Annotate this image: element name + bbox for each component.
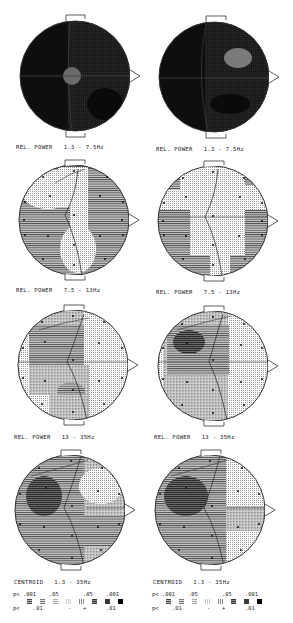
swatch-dark-gray — [244, 599, 249, 604]
legend-value-001-pos: .001 — [106, 591, 119, 597]
legend-value-01-neg: .01 — [33, 605, 43, 611]
topomap-rel-power-delta-theta-left — [10, 4, 145, 139]
swatch-dots-dense — [79, 599, 84, 604]
panel-label-b2: REL. POWER 7.5 - 13Hz — [156, 289, 240, 295]
topomap-rel-power-alpha-left — [10, 155, 145, 285]
legend-plus: + — [83, 605, 86, 611]
swatch-hatch-dark — [231, 599, 236, 604]
topomap-centroid-right — [146, 446, 286, 576]
legend-value-05-pos: .05 — [83, 591, 93, 597]
legend-value-05-neg: .05 — [188, 591, 198, 597]
legend-value-001-neg: .001 — [23, 591, 36, 597]
swatch-hatch-light — [53, 599, 58, 604]
topomap-rel-power-beta-left — [9, 300, 144, 430]
significance-legend-right: p< .001 .05 .05 .001 p< .01 - + .01 — [152, 591, 262, 612]
legend-swatch-row — [13, 598, 123, 605]
swatch-black — [257, 599, 262, 604]
legend-value-01-neg: .01 — [172, 605, 182, 611]
panel-label-d2: CENTROID 1.3 - 35Hz — [153, 579, 230, 585]
legend-swatch-row — [152, 598, 262, 605]
swatch-hatch-medium — [40, 599, 45, 604]
legend-p-label-top: p< — [13, 591, 20, 597]
swatch-dark-gray — [105, 599, 110, 604]
legend-plus: + — [222, 605, 225, 611]
panel-label-d1: CENTROID 1.3 - 35Hz — [14, 579, 91, 585]
topomap-rel-power-delta-theta-right — [150, 4, 290, 139]
legend-minus: - — [207, 605, 210, 611]
panel-label-a2: REL. POWER 1.3 - 7.5Hz — [156, 146, 244, 152]
legend-value-01-pos: .01 — [106, 605, 116, 611]
legend-p-label-top: p< — [152, 591, 159, 597]
significance-legend-left: p< .001 .05 .05 .001 p< .01 - + .01 — [13, 591, 123, 612]
legend-p-label-bottom: p< — [152, 605, 159, 611]
panel-label-c1: REL. POWER 13 - 35Hz — [14, 434, 95, 440]
swatch-hatch-light — [192, 599, 197, 604]
panel-label-a1: REL. POWER 1.3 - 7.5Hz — [16, 144, 104, 150]
topomap-rel-power-alpha-right — [150, 155, 290, 285]
legend-value-05-neg: .05 — [49, 591, 59, 597]
swatch-black — [118, 599, 123, 604]
swatch-hatch-medium — [179, 599, 184, 604]
legend-value-001-neg: .001 — [162, 591, 175, 597]
swatch-hatch-dense — [27, 599, 32, 604]
swatch-dots-light — [66, 599, 71, 604]
swatch-hatch-dark — [92, 599, 97, 604]
legend-p-label-bottom: p< — [13, 605, 20, 611]
legend-value-05-pos: .05 — [222, 591, 232, 597]
topomap-centroid-left — [6, 446, 141, 576]
legend-minus: - — [68, 605, 71, 611]
swatch-hatch-dense — [166, 599, 171, 604]
topomap-rel-power-beta-right — [149, 300, 289, 430]
swatch-dots-light — [205, 599, 210, 604]
legend-value-01-pos: .01 — [245, 605, 255, 611]
panel-label-b1: REL. POWER 7.5 - 13Hz — [16, 287, 100, 293]
panel-label-c2: REL. POWER 13 - 35Hz — [154, 434, 235, 440]
legend-value-001-pos: .001 — [245, 591, 258, 597]
swatch-dots-dense — [218, 599, 223, 604]
